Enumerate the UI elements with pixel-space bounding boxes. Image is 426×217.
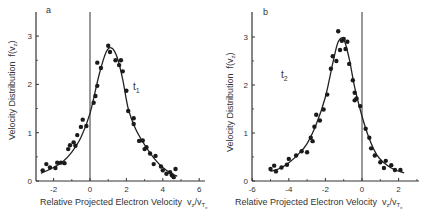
data-point	[373, 153, 377, 157]
data-point	[79, 125, 83, 129]
x-tick-label: -6	[249, 185, 257, 194]
y-axis-label-text: Velocity Distribution	[7, 61, 17, 140]
data-point	[93, 94, 97, 98]
data-point	[285, 162, 289, 166]
data-point	[73, 144, 77, 148]
data-point	[318, 118, 322, 122]
data-point	[75, 133, 79, 137]
x-tick-label: 6	[197, 185, 202, 194]
data-point	[354, 96, 358, 100]
data-point	[310, 139, 314, 143]
data-point	[68, 143, 72, 147]
x-tick-label: 2	[396, 185, 401, 194]
data-point	[124, 88, 128, 92]
data-point	[44, 162, 48, 166]
panel-label: b	[263, 7, 268, 17]
data-point	[334, 59, 338, 63]
data-point	[106, 44, 110, 48]
data-point	[95, 60, 99, 64]
data-point	[161, 168, 165, 172]
y-tick-label: 3	[28, 32, 33, 41]
data-point	[389, 163, 393, 167]
y-tick-label: 3	[244, 33, 249, 42]
data-point	[393, 168, 397, 172]
x-axis-label-text: Relative Projected Electron Velocity	[40, 197, 183, 207]
data-point	[141, 138, 145, 142]
chart-b-canvas: 0123-6-4-202bt2Relative Projected Electr…	[213, 0, 426, 217]
data-point	[131, 122, 135, 126]
data-point	[172, 175, 176, 179]
data-point	[274, 169, 278, 173]
data-point	[126, 109, 130, 113]
y-axis-label: Velocity Distributionf(vz)	[7, 40, 18, 140]
data-point	[351, 78, 355, 82]
data-point	[99, 66, 103, 70]
chart-panel-a: 0123-20246at1Relative Projected Electron…	[0, 0, 213, 217]
y-tick-label: 1	[244, 129, 249, 138]
data-point	[84, 124, 88, 128]
data-point	[378, 160, 382, 164]
data-point	[352, 90, 356, 94]
data-point	[268, 167, 272, 171]
data-point	[153, 154, 157, 158]
data-point	[343, 47, 347, 51]
x-tick-label: 0	[88, 185, 93, 194]
data-point	[279, 165, 283, 169]
y-axis-unit: f(v	[225, 58, 235, 68]
x-axis-unit-sub: e	[205, 205, 208, 210]
data-point	[144, 145, 148, 149]
data-point	[342, 37, 346, 41]
data-point	[398, 168, 402, 172]
y-tick-label: 2	[244, 81, 249, 90]
data-point	[287, 157, 291, 161]
data-point	[294, 153, 298, 157]
y-tick-label: 0	[28, 177, 33, 186]
data-point	[358, 104, 362, 108]
data-point	[312, 125, 316, 129]
x-tick-label: -2	[322, 185, 330, 194]
y-axis-unit: )	[7, 40, 17, 43]
y-tick-label: 1	[28, 129, 33, 138]
x-tick-label: 4	[161, 185, 166, 194]
data-point	[305, 150, 309, 154]
data-point	[336, 29, 340, 33]
data-point	[62, 161, 66, 165]
data-point	[173, 167, 177, 171]
data-point	[121, 69, 125, 73]
x-tick-label: -4	[285, 185, 293, 194]
curve-label: t2	[281, 69, 288, 82]
data-point	[131, 116, 135, 120]
panel-label: a	[46, 5, 51, 15]
data-point	[384, 159, 388, 163]
data-point	[108, 50, 112, 54]
curve-label-subscript: 1	[136, 87, 140, 94]
y-axis-label: Velocity Distributionf(vz)	[225, 52, 236, 152]
data-point	[338, 48, 342, 52]
x-tick-label: 2	[124, 185, 129, 194]
data-point	[347, 62, 351, 66]
data-point	[325, 92, 329, 96]
curve-label-subscript: 2	[284, 75, 288, 82]
data-point	[119, 58, 123, 62]
x-tick-label: -2	[50, 185, 58, 194]
data-point	[81, 117, 85, 121]
data-point	[272, 163, 276, 167]
data-point	[345, 40, 349, 44]
data-point	[367, 136, 371, 140]
data-point	[91, 101, 95, 105]
data-point	[53, 166, 57, 170]
x-axis-label: Relative Projected Electron Velocityvz/v…	[40, 197, 208, 210]
x-axis-label-text: Relative Projected Electron Velocity	[235, 197, 378, 207]
data-point	[113, 58, 117, 62]
data-point	[159, 164, 163, 168]
data-point	[321, 107, 325, 111]
x-tick-label: 0	[360, 185, 365, 194]
data-point	[369, 146, 373, 150]
data-point	[329, 66, 333, 70]
chart-panel-b: 0123-6-4-202bt2Relative Projected Electr…	[213, 0, 426, 217]
data-point	[95, 84, 99, 88]
chart-a-canvas: 0123-20246at1Relative Projected Electron…	[0, 0, 213, 217]
data-point	[382, 166, 386, 170]
data-point	[40, 168, 44, 172]
data-point	[117, 63, 121, 67]
